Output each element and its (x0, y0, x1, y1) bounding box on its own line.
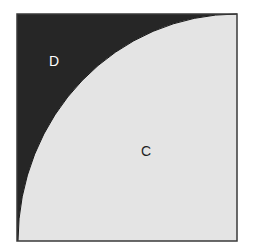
label-d: D (49, 53, 59, 69)
label-c: C (141, 143, 151, 159)
region-diagram: D C (0, 0, 254, 250)
